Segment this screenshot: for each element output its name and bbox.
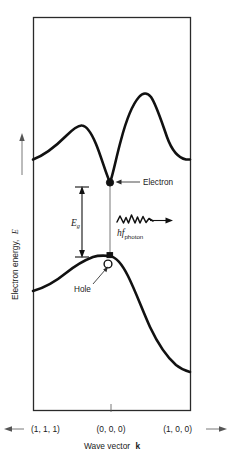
band-structure-figure: Electron energy, E Eg Electron Hole hf bbox=[0, 0, 231, 454]
x-tick-label-000: (0, 0, 0) bbox=[97, 424, 126, 434]
y-axis-label: Electron energy, E bbox=[10, 229, 20, 300]
valence-max-marker bbox=[107, 253, 113, 258]
hole-label: Hole bbox=[74, 285, 91, 294]
electron-label: Electron bbox=[143, 178, 173, 187]
y-axis-arrow bbox=[19, 133, 24, 175]
x-axis-left-arrow bbox=[4, 426, 24, 432]
x-tick-label-100: (1, 0, 0) bbox=[163, 424, 192, 434]
x-axis-right-arrow bbox=[206, 426, 227, 432]
x-tick-label-111: (1, 1, 1) bbox=[31, 424, 60, 434]
x-axis-title: Wave vector k bbox=[84, 441, 141, 451]
electron-marker bbox=[106, 179, 113, 186]
plot-frame bbox=[34, 18, 191, 411]
hole-marker bbox=[104, 260, 112, 268]
